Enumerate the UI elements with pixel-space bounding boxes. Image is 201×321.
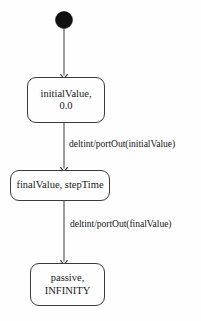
state-label-line: finalValue, stepTime — [16, 179, 103, 191]
transition-label-final-to-passive: deltint/portOut(finalValue) — [70, 218, 172, 229]
state-node-final-value[interactable]: finalValue, stepTime — [10, 170, 110, 201]
state-node-passive[interactable]: passive, INFINITY — [30, 263, 105, 306]
state-label-line: passive, — [51, 272, 85, 284]
initial-state-marker — [56, 12, 73, 29]
transition-label-initial-to-final: deltint/portOut(initialValue) — [69, 138, 175, 149]
state-node-initial-value[interactable]: initialValue, 0.0 — [27, 77, 105, 123]
state-diagram-canvas: initialValue, 0.0 finalValue, stepTime p… — [0, 0, 201, 321]
state-label-line: 0.0 — [59, 100, 72, 112]
state-label-line: initialValue, — [40, 88, 91, 100]
state-label-line: INFINITY — [45, 285, 91, 297]
